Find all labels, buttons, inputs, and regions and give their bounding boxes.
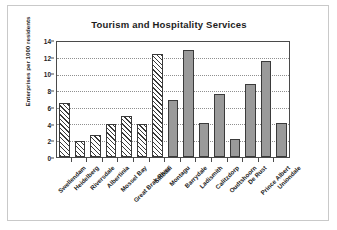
bar-slot — [212, 42, 227, 157]
x-label-slot: Heidelberg — [72, 163, 88, 219]
bar-slot — [258, 42, 273, 157]
bar-slot — [119, 42, 134, 157]
x-label-slot: Great Brak River — [134, 163, 150, 219]
y-tick-label: 14 — [44, 38, 51, 45]
x-label-slot: Uniondale — [274, 163, 290, 219]
chart-frame: Tourism and Hospitality Services Enterpr… — [7, 5, 329, 221]
y-tick-label: 10 — [44, 71, 51, 78]
x-tick-mark — [134, 158, 150, 162]
bar-slot — [181, 42, 196, 157]
x-label-slot: Oudtshoorn — [228, 163, 244, 219]
x-tick-mark — [165, 158, 181, 162]
bar-slot — [88, 42, 103, 157]
y-axis-ticks: 02468101214 — [28, 41, 54, 158]
bar-slot — [72, 42, 87, 157]
x-tick-mark — [181, 158, 197, 162]
x-label-slot: Stilbaai — [150, 163, 166, 219]
bar[interactable] — [106, 124, 117, 157]
x-label-slot: Barrydale — [181, 163, 197, 219]
bar[interactable] — [168, 100, 179, 157]
bar-slot — [243, 42, 258, 157]
x-axis-labels: SwellendamHeidelbergRiversdaleAlbertinia… — [56, 163, 290, 219]
bar-slot — [150, 42, 165, 157]
x-label-slot: De Rust — [243, 163, 259, 219]
x-tick-mark — [118, 158, 134, 162]
bar-slot — [274, 42, 289, 157]
x-axis-ticks — [56, 158, 290, 162]
x-tick-mark — [150, 158, 166, 162]
x-tick-mark — [228, 158, 244, 162]
bar[interactable] — [183, 50, 194, 157]
x-tick-mark — [72, 158, 88, 162]
y-tick-mark — [51, 91, 54, 92]
bar-slot — [227, 42, 242, 157]
x-label-slot: Albertinia — [103, 163, 119, 219]
y-tick-label: 12 — [44, 54, 51, 61]
x-label-slot: Calitzdorp — [212, 163, 228, 219]
bar[interactable] — [152, 54, 163, 157]
bar[interactable] — [59, 103, 70, 157]
bar[interactable] — [214, 94, 225, 157]
bar[interactable] — [230, 139, 241, 157]
bar[interactable] — [276, 123, 287, 158]
x-tick-mark — [103, 158, 119, 162]
y-tick-mark — [51, 141, 54, 142]
x-tick-label: Uniondale — [276, 164, 302, 190]
chart-title: Tourism and Hospitality Services — [8, 19, 330, 30]
x-label-slot: Riversdale — [87, 163, 103, 219]
bar-series — [57, 42, 289, 157]
bar-slot — [103, 42, 118, 157]
bar[interactable] — [261, 61, 272, 157]
y-tick-mark — [51, 74, 54, 75]
x-tick-mark — [212, 158, 228, 162]
bar-slot — [57, 42, 72, 157]
x-tick-mark — [259, 158, 275, 162]
y-tick-mark — [51, 107, 54, 108]
bar-slot — [134, 42, 149, 157]
bar[interactable] — [75, 141, 86, 157]
x-tick-mark — [274, 158, 290, 162]
x-label-slot: Ladismith — [196, 163, 212, 219]
y-tick-mark — [51, 57, 54, 58]
bar[interactable] — [90, 135, 101, 157]
y-tick-mark — [51, 124, 54, 125]
bar-slot — [196, 42, 211, 157]
x-tick-mark — [243, 158, 259, 162]
bar[interactable] — [245, 84, 256, 157]
x-label-slot: Prince Albert — [259, 163, 275, 219]
y-tick-mark — [51, 41, 54, 42]
x-tick-mark — [87, 158, 103, 162]
x-label-slot: Mossel Bay — [118, 163, 134, 219]
bar-slot — [165, 42, 180, 157]
y-tick-mark — [51, 158, 54, 159]
bar[interactable] — [137, 124, 148, 157]
x-label-slot: Montagu — [165, 163, 181, 219]
x-tick-mark — [196, 158, 212, 162]
x-label-slot: Swellendam — [56, 163, 72, 219]
bar[interactable] — [199, 123, 210, 157]
plot-area — [56, 41, 290, 158]
bar[interactable] — [121, 116, 132, 157]
x-tick-mark — [56, 158, 72, 162]
